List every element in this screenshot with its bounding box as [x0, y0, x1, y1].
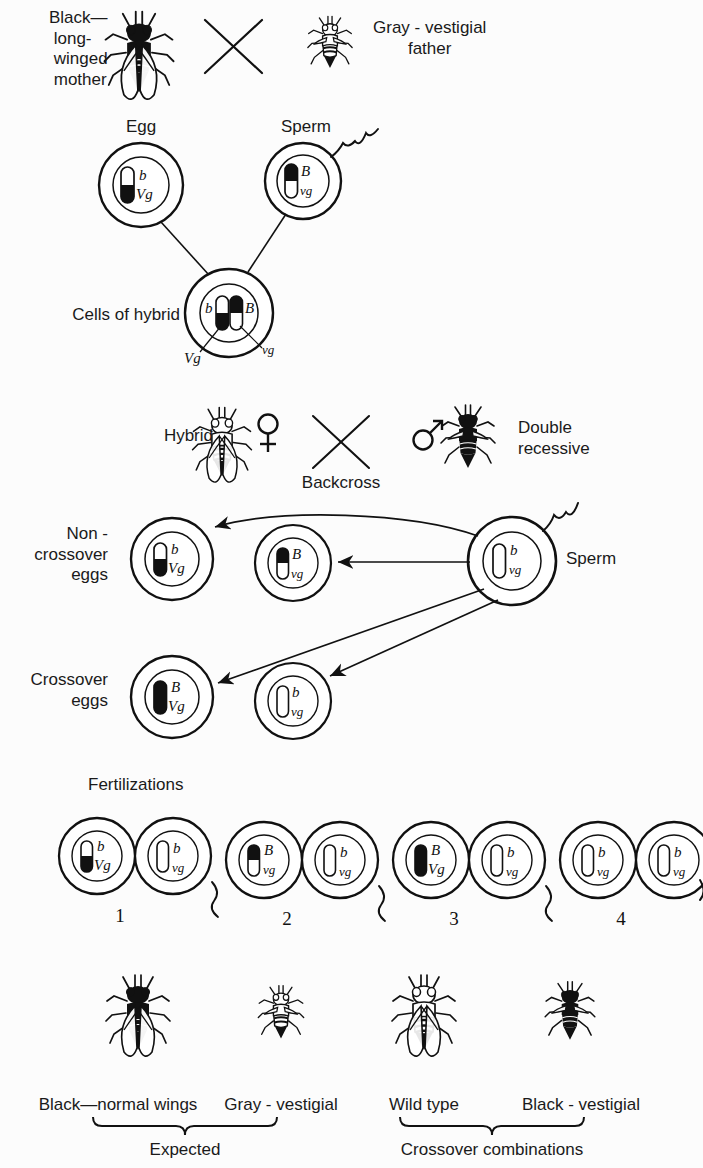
crossover-egg-2	[255, 663, 331, 739]
sperm-label-backcross: Sperm	[566, 549, 616, 570]
noncrossover-egg-2	[255, 525, 331, 601]
co1-allele-bottom: Vg	[168, 698, 185, 715]
f4-egg-allele-top: b	[598, 844, 606, 861]
double-recessive-fly-icon	[441, 405, 495, 468]
hybrid-right-allele-lower: vg	[262, 342, 274, 358]
chromosome-b-vg-sperm	[493, 544, 506, 578]
chromosome-b-Vg	[121, 167, 134, 203]
father-fly-icon	[308, 16, 352, 68]
offspring-fly-3	[392, 975, 456, 1056]
backcross-label: Backcross	[302, 473, 380, 494]
egg-label: Egg	[126, 117, 156, 138]
father-label: Gray - vestigial father	[373, 18, 486, 59]
offspring-label-3: Wild type	[389, 1095, 459, 1116]
offspring-label-2: Gray - vestigial	[224, 1095, 337, 1116]
sperm-allele-top: B	[301, 163, 310, 180]
egg-allele-top: b	[139, 167, 147, 184]
egg-cell	[99, 143, 183, 227]
f1-sperm-allele-bottom: vg	[172, 860, 184, 876]
f3-sperm-allele-bottom: vg	[506, 864, 518, 880]
f4-egg-allele-bottom: vg	[597, 864, 609, 880]
sperm-cell-backcross	[468, 503, 578, 605]
crossover-egg-1	[131, 656, 213, 738]
hybrid-label: Hybrid	[164, 426, 213, 447]
fertilization-number-2: 2	[282, 908, 292, 930]
sperm-allele-bottom: vg	[300, 183, 312, 199]
nc2-allele-top: B	[292, 546, 301, 563]
offspring-fly-4	[545, 982, 595, 1040]
f3-egg-allele-bottom: Vg	[428, 861, 445, 878]
mother-fly-icon	[104, 12, 173, 100]
brace-expected	[93, 1117, 277, 1135]
fertilization-number-3: 3	[449, 908, 459, 930]
fertilization-pair-2	[226, 822, 385, 921]
hybrid-right-allele-upper: B	[245, 300, 254, 317]
fertilization-number-4: 4	[616, 908, 626, 930]
f2-sperm-allele-bottom: vg	[339, 864, 351, 880]
f2-egg-allele-top: B	[264, 842, 273, 859]
noncrossover-eggs-label: Non - crossover eggs	[34, 524, 108, 586]
nc1-allele-top: b	[171, 541, 179, 558]
hybrid-chromosome-right	[230, 296, 243, 330]
backcross-cross-symbol	[313, 416, 369, 468]
f1-egg-allele-bottom: Vg	[94, 857, 111, 874]
f4-sperm-allele-bottom: vg	[673, 864, 685, 880]
f1-sperm-allele-top: b	[173, 840, 181, 857]
egg-allele-bottom: Vg	[136, 186, 153, 203]
hybrid-chromosome-left	[216, 296, 229, 330]
hybrid-cell	[185, 269, 273, 357]
f2-egg-allele-bottom: vg	[263, 862, 275, 878]
f1-egg-allele-top: b	[97, 838, 105, 855]
fertilization-pair-4	[560, 822, 703, 900]
offspring-label-4: Black - vestigial	[522, 1095, 640, 1116]
male-symbol-icon	[414, 421, 443, 450]
f3-egg-allele-top: B	[431, 842, 440, 859]
nc1-allele-bottom: Vg	[168, 560, 185, 577]
f4-sperm-allele-top: b	[674, 844, 682, 861]
hybrid-cell-label: Cells of hybrid	[72, 305, 180, 326]
mother-label: Black— long- winged mother	[49, 8, 108, 91]
fusion-lines	[161, 214, 286, 275]
offspring-fly-2	[258, 986, 303, 1039]
sperm-label-top: Sperm	[281, 117, 331, 138]
noncrossover-egg-1	[131, 518, 213, 600]
crossover-eggs-label: Crossover eggs	[31, 670, 108, 711]
sperm-bc-allele-bottom: vg	[509, 562, 521, 578]
arrow-to-crossover-2	[330, 600, 498, 676]
nc2-allele-bottom: vg	[291, 566, 303, 582]
brace-label-crossover: Crossover combinations	[401, 1140, 583, 1161]
fertilization-pair-3	[393, 822, 552, 921]
brace-label-expected: Expected	[150, 1140, 221, 1161]
sperm-cell-top	[265, 129, 378, 219]
chromosome-B-vg	[285, 164, 298, 198]
female-symbol-icon	[259, 415, 278, 453]
arrow-to-crossover-1	[218, 589, 484, 683]
f3-sperm-allele-top: b	[507, 844, 515, 861]
parental-cross-symbol	[205, 20, 262, 73]
offspring-label-1: Black—normal wings	[39, 1095, 198, 1116]
fertilization-pair-1	[59, 818, 218, 917]
sperm-bc-allele-top: b	[510, 542, 518, 559]
figure-canvas: Black— long- winged mother Gray - vestig…	[0, 0, 703, 1168]
fertilizations-label: Fertilizations	[88, 775, 183, 796]
arrow-to-noncrossover-1	[215, 515, 478, 536]
f2-sperm-allele-top: b	[340, 844, 348, 861]
hybrid-left-allele-lower: Vg	[184, 350, 201, 367]
co2-allele-bottom: vg	[291, 704, 303, 720]
co2-allele-top: b	[292, 684, 300, 701]
fertilization-number-1: 1	[115, 905, 125, 927]
fertilization-arrows	[215, 515, 498, 683]
offspring-fly-1	[106, 975, 170, 1056]
hybrid-left-allele-upper: b	[205, 300, 213, 317]
double-recessive-label: Double recessive	[518, 418, 590, 459]
co1-allele-top: B	[171, 679, 180, 696]
brace-crossover	[400, 1117, 584, 1135]
